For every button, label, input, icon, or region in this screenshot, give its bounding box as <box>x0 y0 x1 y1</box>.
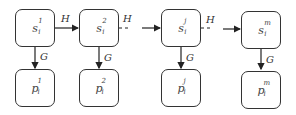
edge-label-h-3: H <box>206 14 215 25</box>
node-pj-label: pji <box>177 82 184 95</box>
node-sj: sji <box>161 9 201 47</box>
node-s2: s2i <box>79 9 119 47</box>
node-s1-label: s1i <box>32 22 38 35</box>
edge-label-g-1: G <box>40 51 48 62</box>
edge-label-h-2: H <box>123 13 132 24</box>
node-sm: smi <box>241 11 281 49</box>
node-p2-label: p2i <box>95 82 102 95</box>
node-p1: p1i <box>15 69 55 107</box>
node-s2-label: s2i <box>96 22 102 35</box>
node-p1-label: p1i <box>31 82 38 95</box>
edge-label-g-2: G <box>104 52 112 63</box>
node-pj: pji <box>161 69 201 107</box>
node-pm: pmi <box>241 71 281 109</box>
edge-label-g-4: G <box>266 54 274 65</box>
node-sm-label: smi <box>258 24 264 37</box>
node-s1: s1i <box>15 9 55 47</box>
edge-label-h-1: H <box>61 13 70 24</box>
node-pm-label: pmi <box>257 84 264 97</box>
node-p2: p2i <box>79 69 119 107</box>
node-sj-label: sji <box>178 22 184 35</box>
edge-label-g-3: G <box>186 52 194 63</box>
